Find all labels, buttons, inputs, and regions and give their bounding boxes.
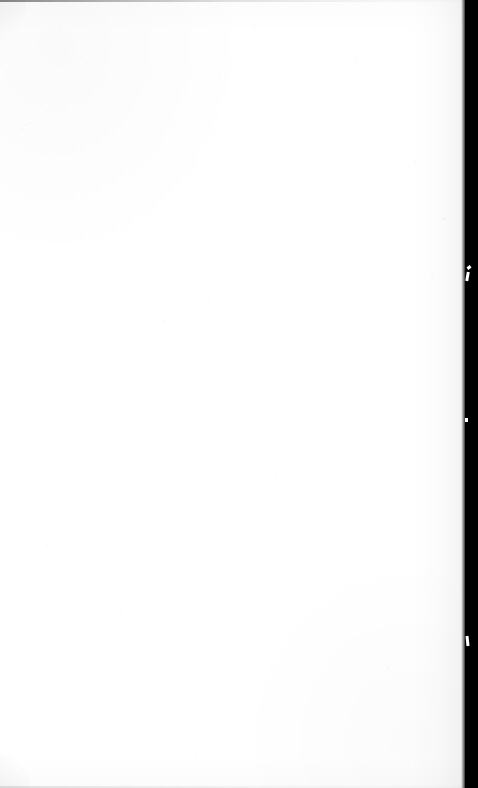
gutter-nick-middle xyxy=(465,418,468,422)
scanned-page xyxy=(0,0,478,788)
left-bottom-edge-smudge xyxy=(0,754,30,788)
top-edge-rule xyxy=(0,0,466,2)
left-top-edge-smudge xyxy=(0,0,26,40)
scanner-gutter-band xyxy=(465,0,478,788)
paper-surface xyxy=(0,0,466,788)
